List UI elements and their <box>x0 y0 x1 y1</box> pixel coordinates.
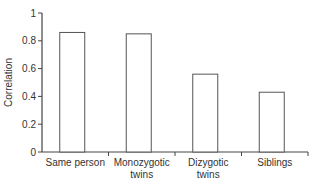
chart-canvas: 00.20.40.60.81CorrelationSame personMono… <box>0 0 315 186</box>
y-tick-label: 0.4 <box>22 91 36 102</box>
x-tick-label: Same person <box>46 157 105 168</box>
x-tick-label: Dizygotic <box>188 157 229 168</box>
x-tick-label: Monozygotic <box>114 157 170 168</box>
x-tick-label: Siblings <box>257 157 292 168</box>
bar <box>126 34 151 152</box>
y-tick-label: 0.2 <box>22 119 36 130</box>
bar-chart: 00.20.40.60.81CorrelationSame personMono… <box>0 0 315 186</box>
y-tick-label: 0.8 <box>22 35 36 46</box>
x-tick-label: twins <box>197 169 220 180</box>
bar <box>259 92 284 152</box>
x-tick-label: twins <box>130 169 153 180</box>
bar <box>193 74 218 152</box>
y-tick-label: 0 <box>30 147 36 158</box>
y-tick-label: 1 <box>30 8 36 19</box>
y-axis-label: Correlation <box>3 58 14 107</box>
bar <box>60 32 85 152</box>
y-tick-label: 0.6 <box>22 63 36 74</box>
